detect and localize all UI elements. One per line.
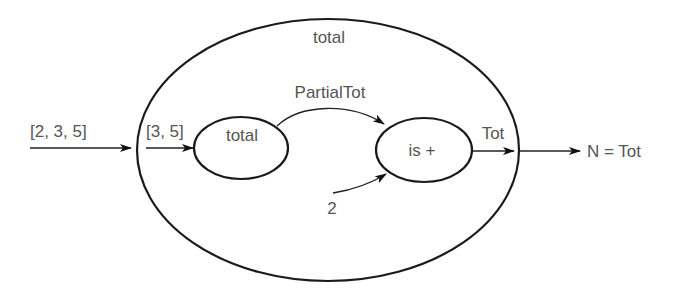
inner-node-is-plus: is + xyxy=(376,118,472,182)
tot-label: Tot xyxy=(482,124,505,143)
total-node-label: total xyxy=(226,126,258,145)
edge-tot: Tot xyxy=(472,124,514,151)
diagram-canvas: total total is + [2, 3, 5] [3, 5] Partia… xyxy=(0,0,676,293)
constant-arrow xyxy=(333,174,386,193)
input-list-label: [2, 3, 5] xyxy=(30,122,87,141)
edge-tail-list: [3, 5] xyxy=(146,122,193,148)
tail-list-label: [3, 5] xyxy=(146,122,184,141)
edge-output: N = Tot xyxy=(520,142,641,161)
partial-tot-label: PartialTot xyxy=(295,83,366,102)
output-label: N = Tot xyxy=(587,142,641,161)
edge-partial-tot: PartialTot xyxy=(277,83,384,126)
is-plus-node-label: is + xyxy=(409,141,436,160)
inner-node-total: total xyxy=(194,117,288,179)
edge-input-list: [2, 3, 5] xyxy=(30,122,131,148)
edge-constant-two: 2 xyxy=(327,174,386,218)
partial-tot-arrow xyxy=(277,108,384,126)
constant-label: 2 xyxy=(327,199,336,218)
outer-node-label: total xyxy=(313,28,345,47)
